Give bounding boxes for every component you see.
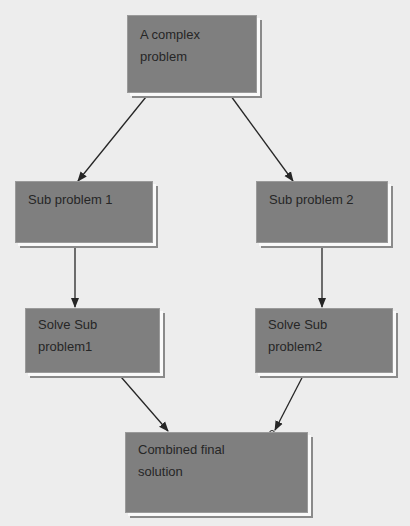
edge-solve2-combined — [275, 370, 306, 430]
edge-root-sub1 — [78, 92, 150, 181]
node-sub-problem-1[interactable]: Sub problem 1 — [15, 181, 153, 243]
node-label-line2: problem1 — [38, 336, 147, 358]
node-label-line1: Sub problem 1 — [28, 189, 140, 211]
node-label-line1: A complex — [140, 24, 244, 46]
edge-root-sub2 — [228, 92, 293, 181]
node-solve-sub-problem-2[interactable]: Solve Sub problem2 — [255, 308, 393, 373]
node-solve-sub-problem-1[interactable]: Solve Sub problem1 — [25, 308, 160, 373]
node-label-line1: Sub problem 2 — [269, 189, 375, 211]
node-label-line1: Combined final — [138, 439, 295, 461]
node-label-line1: Solve Sub — [38, 314, 147, 336]
node-label-line2: solution — [138, 461, 295, 483]
edge-solve1-combined — [115, 370, 168, 431]
node-sub-problem-2[interactable]: Sub problem 2 — [256, 181, 388, 243]
node-complex-problem[interactable]: A complex problem — [127, 15, 257, 93]
node-label-line2: problem2 — [268, 336, 380, 358]
node-label-line2: problem — [140, 46, 244, 68]
node-combined-final-solution[interactable]: Combined final solution — [125, 432, 308, 513]
node-label-line1: Solve Sub — [268, 314, 380, 336]
